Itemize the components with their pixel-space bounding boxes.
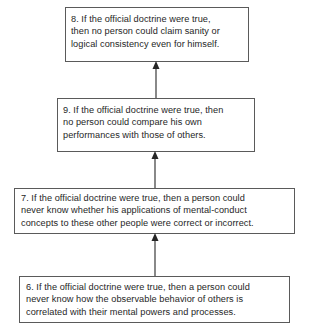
node-9-line-3: performances with those of others. bbox=[63, 129, 254, 141]
arrow-9-to-8-icon bbox=[150, 61, 162, 99]
node-8-line-3: logical consistency even for himself. bbox=[71, 38, 248, 50]
arrow-6-to-7-icon bbox=[149, 233, 161, 277]
node-8-line-1: 8. If the official doctrine were true, bbox=[71, 13, 248, 25]
arrow-7-to-9-icon bbox=[149, 151, 161, 189]
node-7-line-2: never know whether his applications of m… bbox=[21, 204, 294, 216]
node-8-box: 8. If the official doctrine were true, t… bbox=[65, 7, 249, 62]
node-9-line-1: 9. If the official doctrine were true, t… bbox=[63, 104, 254, 116]
node-6-line-1: 6. If the official doctrine were true, t… bbox=[26, 281, 289, 293]
node-7-line-1: 7. If the official doctrine were true, t… bbox=[21, 192, 294, 204]
node-9-box: 9. If the official doctrine were true, t… bbox=[57, 98, 255, 152]
node-9-line-2: no person could compare his own bbox=[63, 116, 254, 128]
node-7-line-3: concepts to these other people were corr… bbox=[21, 217, 294, 229]
node-8-line-2: then no person could claim sanity or bbox=[71, 25, 248, 37]
node-6-box: 6. If the official doctrine were true, t… bbox=[19, 276, 290, 323]
node-6-line-2: never know how the observable behavior o… bbox=[26, 293, 289, 305]
node-7-box: 7. If the official doctrine were true, t… bbox=[14, 188, 295, 234]
node-6-line-3: correlated with their mental powers and … bbox=[26, 306, 289, 318]
